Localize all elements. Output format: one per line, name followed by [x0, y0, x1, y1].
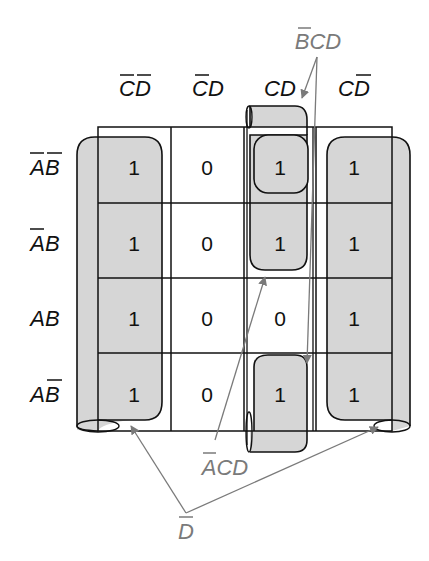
label-dbar: D — [178, 519, 194, 544]
cell-r3-c1: 1 — [128, 307, 140, 330]
cell-r4-c1: 1 — [128, 383, 140, 406]
cell-r1-c3: 1 — [274, 156, 286, 179]
label-bbar-cd: BCD — [295, 29, 342, 54]
cell-r3-c3: 0 — [274, 307, 286, 330]
cell-r4-c2: 0 — [201, 383, 213, 406]
row-headers: AB AB AB AB — [28, 153, 62, 407]
row-header-abar-bbar: AB — [28, 155, 59, 180]
label-abar-cd: ACD — [200, 455, 249, 480]
karnaugh-map: CD CD CD CD AB AB AB AB 1 0 1 1 1 0 1 1 … — [0, 0, 429, 561]
cell-r1-c2: 0 — [201, 156, 213, 179]
group-d-bar-left — [77, 137, 162, 432]
cell-r2-c3: 1 — [274, 232, 286, 255]
cell-r3-c2: 0 — [201, 307, 213, 330]
group-d-bar-right — [327, 137, 410, 432]
column-headers: CD CD CD CD — [119, 75, 371, 101]
cell-r2-c2: 0 — [201, 232, 213, 255]
col-header-c-d: CD — [264, 76, 296, 101]
cell-r3-c4: 1 — [348, 307, 360, 330]
row-header-abar-b: AB — [28, 231, 59, 256]
cell-r2-c1: 1 — [128, 232, 140, 255]
col-header-c-dbar: CD — [338, 76, 370, 101]
col-header-cbar-dbar: CD — [119, 76, 151, 101]
cell-r1-c1: 1 — [128, 156, 140, 179]
row-header-a-bbar: AB — [28, 382, 59, 407]
cell-r1-c4: 1 — [348, 156, 360, 179]
row-header-a-b: AB — [28, 306, 59, 331]
cell-r2-c4: 1 — [348, 232, 360, 255]
cell-r4-c4: 1 — [348, 383, 360, 406]
col-header-cbar-d: CD — [192, 76, 224, 101]
cell-r4-c3: 1 — [274, 383, 286, 406]
